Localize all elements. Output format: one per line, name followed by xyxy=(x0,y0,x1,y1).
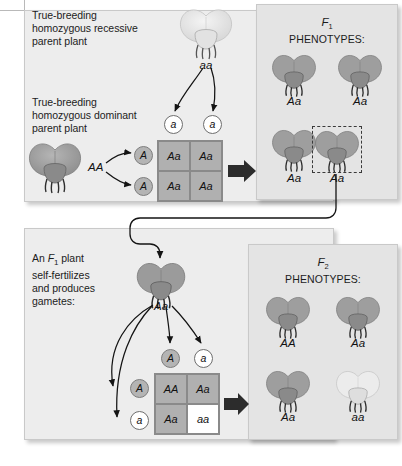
f2-offspring-genotype-4: aa xyxy=(352,411,365,423)
f1-selected-offspring-highlight xyxy=(312,126,362,173)
punnett-cell-p-3: Aa xyxy=(158,171,190,201)
f2-offspring-genotype-3: Aa xyxy=(281,411,295,423)
punnett-square-p-cross: Aa Aa Aa Aa xyxy=(157,140,223,202)
gamete-circle-p-left-1: A xyxy=(134,146,153,165)
punnett-cell-p-1: Aa xyxy=(158,141,190,171)
f1-generation-label: F1 xyxy=(321,16,332,28)
punnett-cell-p-2: Aa xyxy=(190,141,222,171)
f1-generation-subscript: 1 xyxy=(328,22,332,31)
gamete-circle-p-left-2: A xyxy=(134,177,153,196)
punnett-cell-f1-4: aa xyxy=(187,404,219,434)
f1-phenotypes-label: PHENOTYPES: xyxy=(256,33,398,46)
f1-self-fertilization-caption: An F1 plantself-fertilizesand producesga… xyxy=(32,252,142,308)
gamete-circle-f1-top-2: a xyxy=(194,349,213,368)
gamete-circle-f1-left-1: A xyxy=(130,379,149,398)
f1-offspring-genotype-2: Aa xyxy=(353,95,367,107)
f1-offspring-genotype-4: Aa xyxy=(330,172,344,184)
gamete-circle-f1-top-1: A xyxy=(161,349,180,368)
f1-offspring-genotype-1: Aa xyxy=(287,95,301,107)
f2-offspring-genotype-1: AA xyxy=(280,337,295,349)
f1-panel-heading: F1 PHENOTYPES: xyxy=(256,16,398,46)
caption-line-3: and produces xyxy=(32,282,95,294)
punnett-cell-f1-3: Aa xyxy=(155,404,187,434)
caption-line-4: gametes: xyxy=(32,295,75,307)
gamete-circle-f1-left-2: a xyxy=(130,411,149,430)
dominant-parent-genotype: AA xyxy=(88,161,103,173)
punnett-square-f1-self-cross: AA Aa Aa aa xyxy=(154,373,220,435)
crop-edge-horizontal xyxy=(0,10,25,11)
caption-suffix: plant xyxy=(58,252,83,264)
punnett-cell-f1-2: Aa xyxy=(187,374,219,404)
f1-selfing-plant-genotype: Aa xyxy=(154,300,168,312)
f2-generation-label: F2 xyxy=(317,256,328,268)
genetics-diagram-figure: True-breeding homozygous recessive paren… xyxy=(0,0,402,466)
f2-generation-subscript: 2 xyxy=(324,262,328,271)
f2-offspring-genotype-2: Aa xyxy=(351,337,365,349)
caption-line-2: self-fertilizes xyxy=(32,269,90,281)
f1-offspring-genotype-3: Aa xyxy=(287,172,301,184)
f2-phenotypes-label: PHENOTYPES: xyxy=(248,273,398,286)
caption-prefix: An xyxy=(32,252,48,264)
gamete-circle-p-top-1: a xyxy=(164,115,183,134)
f2-panel-heading: F2 PHENOTYPES: xyxy=(248,256,398,286)
gamete-circle-p-top-2: a xyxy=(203,115,222,134)
punnett-cell-p-4: Aa xyxy=(190,171,222,201)
recessive-parent-caption: True-breeding homozygous recessive paren… xyxy=(32,9,182,48)
punnett-cell-f1-1: AA xyxy=(155,374,187,404)
dominant-parent-caption: True-breeding homozygous dominant parent… xyxy=(32,96,182,135)
recessive-parent-genotype: aa xyxy=(200,59,213,71)
